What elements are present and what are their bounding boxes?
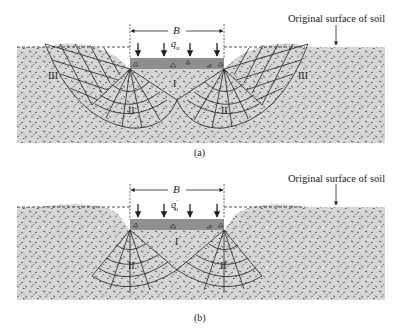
load-label-a: qu [171, 38, 180, 52]
zone-III-left-a: III [48, 70, 58, 81]
load-label-b: q′u [171, 198, 178, 213]
zone-I-a: I [173, 78, 176, 89]
width-label-a: B [173, 24, 180, 36]
panel-b [17, 184, 385, 300]
panel-a [17, 24, 385, 143]
zone-II-right-a: II [221, 105, 228, 116]
caption-a: (a) [194, 147, 205, 158]
zone-II-left-a: II [128, 105, 135, 116]
bearing-capacity-figure [0, 0, 405, 335]
surface-label-a: Original surface of soil [288, 13, 385, 24]
zone-III-right-a: III [298, 70, 308, 81]
caption-b: (b) [194, 312, 206, 323]
load-subscript: u [175, 205, 179, 213]
zone-II-left-b: II [128, 260, 135, 271]
zone-I-b: I [175, 236, 178, 247]
surface-label-b: Original surface of soil [288, 173, 385, 184]
width-label-b: B [173, 183, 180, 195]
zone-II-right-b: II [220, 260, 227, 271]
load-subscript: u [176, 44, 180, 52]
soil-mass-b [17, 204, 385, 300]
